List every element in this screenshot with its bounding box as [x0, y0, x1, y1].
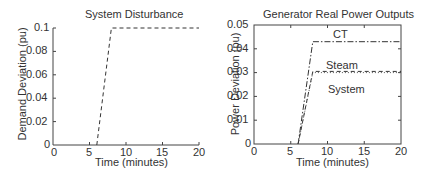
right-ytick-0: 0	[245, 137, 251, 149]
right-xtick-15: 15	[358, 145, 370, 157]
left-chart-title: System Disturbance	[85, 8, 183, 20]
right-xtick-5: 5	[287, 145, 293, 157]
left-series-demand	[97, 28, 199, 145]
left-ytick-002: 0.02	[26, 115, 47, 127]
left-xtick-0: 0	[51, 146, 57, 158]
annotation-ct: CT	[333, 28, 348, 40]
right-xtick-20: 20	[395, 145, 407, 157]
left-chart	[53, 28, 199, 145]
right-ytick-001: 0.01	[227, 113, 248, 125]
right-xtick-0: 0	[251, 145, 257, 157]
left-ytick-006: 0.06	[26, 68, 47, 80]
left-ytick-008: 0.08	[26, 44, 47, 56]
left-ytick-004: 0.04	[26, 91, 47, 103]
right-ytick-005: 0.05	[227, 18, 248, 30]
left-xtick-15: 15	[156, 146, 168, 158]
annotation-steam: Steam	[326, 59, 358, 71]
right-ytick-002: 0.02	[227, 89, 248, 101]
right-ytick-004: 0.04	[227, 42, 248, 54]
left-xtick-10: 10	[120, 146, 132, 158]
right-x-axis-label: Time (minutes)	[296, 156, 369, 168]
right-xtick-10: 10	[321, 145, 333, 157]
left-ytick-0: 0	[44, 138, 50, 150]
left-ytick-01: 0.1	[34, 21, 49, 33]
left-xtick-5: 5	[86, 146, 92, 158]
right-chart-title: Generator Real Power Outputs	[263, 8, 414, 20]
annotation-system: System	[328, 83, 365, 95]
right-ytick-003: 0.03	[227, 65, 248, 77]
left-xtick-20: 20	[193, 146, 205, 158]
